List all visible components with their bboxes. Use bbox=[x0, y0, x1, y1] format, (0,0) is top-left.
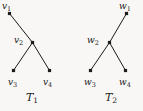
two-trees-figure: v1v2v3v4T1w1w2w3w4T2 bbox=[0, 0, 143, 111]
tree-node-dot-v3 bbox=[12, 69, 15, 72]
node-subscript-w2: 2 bbox=[95, 39, 99, 47]
tree-node-label-w1: w1 bbox=[119, 2, 131, 12]
tree-edge-v2-v3 bbox=[14, 43, 33, 71]
tree-node-dot-w3 bbox=[89, 69, 92, 72]
tree-caption-subscript: 1 bbox=[33, 96, 38, 105]
node-subscript-w3: 3 bbox=[92, 81, 96, 89]
tree-node-dot-w2 bbox=[108, 41, 111, 44]
tree-caption-subscript: 2 bbox=[112, 96, 117, 105]
tree-caption-T1: T1 bbox=[26, 92, 38, 104]
node-subscript-v1: 1 bbox=[7, 5, 11, 13]
tree-edge-w1-w2 bbox=[110, 14, 127, 43]
node-letter-w2: w bbox=[87, 35, 95, 45]
tree-node-label-v3: v3 bbox=[8, 78, 17, 88]
node-letter-w4: w bbox=[119, 77, 127, 87]
tree-node-label-w2: w2 bbox=[87, 36, 99, 46]
tree-node-label-w4: w4 bbox=[119, 78, 131, 88]
tree-node-label-v2: v2 bbox=[14, 36, 23, 46]
tree-edges-layer bbox=[0, 0, 143, 111]
node-letter-w3: w bbox=[84, 77, 92, 87]
tree-edge-v2-v4 bbox=[33, 43, 50, 71]
node-subscript-v2: 2 bbox=[19, 39, 23, 47]
tree-node-label-w3: w3 bbox=[84, 78, 96, 88]
node-subscript-w1: 1 bbox=[127, 5, 131, 13]
tree-node-dot-v4 bbox=[48, 69, 51, 72]
node-subscript-v3: 3 bbox=[13, 81, 17, 89]
tree-caption-T2: T2 bbox=[105, 92, 117, 104]
tree-node-label-v4: v4 bbox=[43, 78, 52, 88]
node-subscript-v4: 4 bbox=[48, 81, 52, 89]
tree-node-dot-w4 bbox=[124, 69, 127, 72]
tree-edge-w2-w3 bbox=[91, 43, 110, 71]
tree-node-label-v1: v1 bbox=[2, 2, 11, 12]
node-subscript-w4: 4 bbox=[127, 81, 131, 89]
node-letter-w1: w bbox=[119, 1, 127, 11]
tree-edge-w2-w4 bbox=[110, 43, 126, 71]
tree-node-dot-v2 bbox=[31, 41, 34, 44]
